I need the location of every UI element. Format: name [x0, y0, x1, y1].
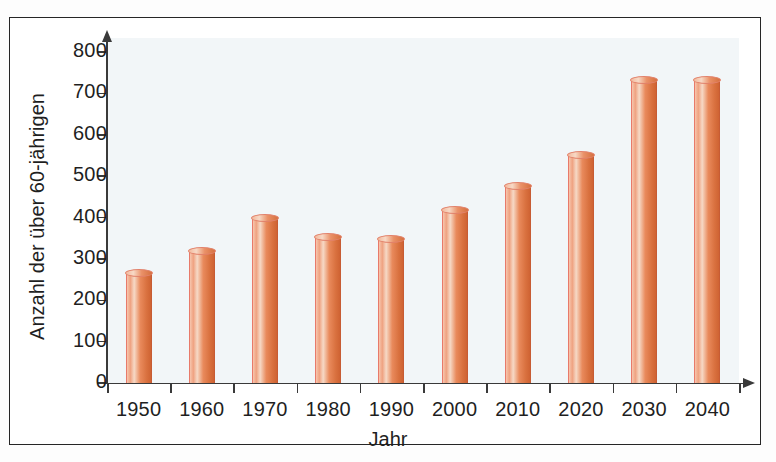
x-axis-tick-mark [170, 383, 172, 393]
y-axis-tick-label: 200 [49, 287, 107, 310]
bar-top-ellipse [441, 206, 469, 214]
bar-body [189, 251, 215, 383]
bar-top-ellipse [693, 76, 721, 84]
bar-body [442, 210, 468, 383]
bar [378, 239, 404, 383]
y-axis-tick-label: 500 [49, 163, 107, 186]
x-axis-tick-label: 2040 [662, 398, 752, 421]
y-axis-title: Anzahl der über 60-jährigen [26, 52, 49, 382]
bar-top-ellipse [188, 247, 216, 255]
chart-figure: 0100200300400500600700800 19501960197019… [0, 0, 776, 462]
bar [631, 80, 657, 383]
y-axis-tick-label: 800 [49, 39, 107, 62]
y-axis-tick-label: 100 [49, 329, 107, 352]
bar [568, 155, 594, 383]
bar [252, 218, 278, 383]
bar-body [126, 273, 152, 383]
x-axis-tick-mark [233, 383, 235, 393]
bar-body [315, 237, 341, 383]
bar-body [505, 186, 531, 383]
bar [694, 80, 720, 383]
bar-top-ellipse [567, 151, 595, 159]
y-axis-tick-label: 400 [49, 205, 107, 228]
y-axis-tick-label: 0 [49, 370, 107, 393]
bar-top-ellipse [314, 233, 342, 241]
x-axis-tick-mark [549, 383, 551, 393]
bar-body [568, 155, 594, 383]
y-axis-tick-label: 600 [49, 122, 107, 145]
bar-body [694, 80, 720, 383]
bar [315, 237, 341, 383]
bar [505, 186, 531, 383]
bar [189, 251, 215, 383]
bar [442, 210, 468, 383]
x-axis-tick-mark [360, 383, 362, 393]
bar-top-ellipse [630, 76, 658, 84]
bar-body [631, 80, 657, 383]
x-axis-tick-mark [486, 383, 488, 393]
x-axis-tick-mark [613, 383, 615, 393]
bar-body [252, 218, 278, 383]
bar [126, 273, 152, 383]
x-axis-title: Jahr [0, 428, 776, 451]
x-axis-tick-mark [676, 383, 678, 393]
y-axis-tick-label: 300 [49, 246, 107, 269]
x-axis-tick-mark [297, 383, 299, 393]
bar-body [378, 239, 404, 383]
x-axis-tick-mark [739, 383, 741, 393]
x-axis-arrow-icon [743, 378, 755, 388]
x-axis-tick-mark [423, 383, 425, 393]
y-axis-tick-label: 700 [49, 80, 107, 103]
x-axis-tick-mark [107, 383, 109, 393]
